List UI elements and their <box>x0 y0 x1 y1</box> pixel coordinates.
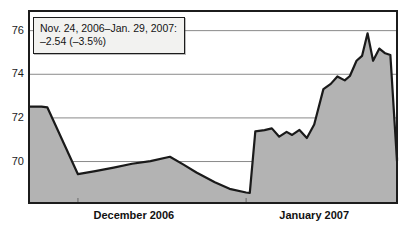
y-axis-tick-label: 74 <box>2 68 24 79</box>
annotation-callout: Nov. 24, 2006–Jan. 29, 2007: –2.54 (–3.5… <box>33 17 185 54</box>
y-axis-tick-label: 72 <box>2 112 24 123</box>
annotation-change-value: –2.54 (–3.5%) <box>40 35 179 48</box>
y-axis-tick-label: 70 <box>2 156 24 167</box>
y-axis-tick-label: 76 <box>2 25 24 36</box>
annotation-date-range: Nov. 24, 2006–Jan. 29, 2007: <box>40 22 179 35</box>
x-axis-tick-label: January 2007 <box>249 209 379 221</box>
stock-chart: 70727476 December 2006January 2007 Nov. … <box>0 0 411 235</box>
x-axis-tick-label: December 2006 <box>69 209 199 221</box>
